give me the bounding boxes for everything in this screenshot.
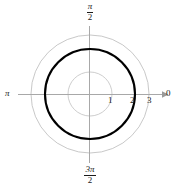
polar-plot-figure: 1 2 3 π 2 3π 2 π 0 (0, 0, 177, 189)
angle-label-3pi-over-2: 3π 2 (78, 165, 102, 185)
radial-tick-label-3: 3 (147, 96, 152, 105)
angle-label-zero: 0 (166, 89, 171, 98)
fraction-3pi-over-2: 3π 2 (84, 165, 95, 185)
angle-label-pi: π (5, 89, 10, 98)
radial-tick-label-1: 1 (108, 96, 113, 105)
angle-label-pi-over-2: π 2 (80, 2, 100, 22)
fraction-pi-over-2: π 2 (87, 2, 94, 22)
fraction-denominator: 2 (84, 176, 95, 186)
fraction-denominator: 2 (87, 13, 94, 23)
radial-tick-label-2: 2 (130, 96, 135, 105)
